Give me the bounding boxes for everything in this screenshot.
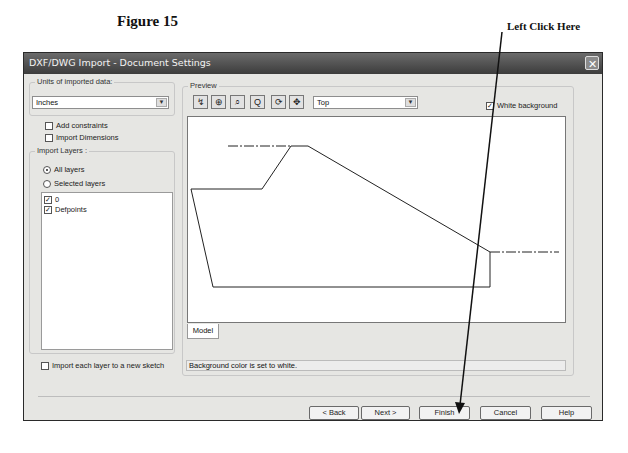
zoom-window-button[interactable]: ⌕ [230,95,245,109]
import-dimensions-label: Import Dimensions [56,133,119,142]
import-each-layer-label: Import each layer to a new sketch [52,361,164,370]
radio-unselected-icon [43,180,51,188]
chevron-down-icon: ▼ [405,98,416,107]
units-value: Inches [36,98,58,107]
layer-label: Defpoints [55,205,87,214]
layers-list[interactable]: ✓ 0 ✓ Defpoints [41,192,173,350]
checkbox-box [45,134,53,142]
select-tool-button[interactable]: ↯ [193,95,208,109]
radio-all-layers[interactable]: All layers [43,165,84,174]
units-dropdown[interactable]: Inches ▼ [32,96,169,109]
radio-selected-icon [43,166,51,174]
zoom-tool-button[interactable]: ⊕ [211,95,226,109]
preview-legend: Preview [188,81,219,90]
back-button[interactable]: < Back [309,406,359,420]
cancel-button[interactable]: Cancel [480,406,531,420]
dialog-title: DXF/DWG Import - Document Settings [29,57,211,68]
status-bar: Background color is set to white. [186,360,566,371]
import-each-layer-checkbox[interactable]: Import each layer to a new sketch [41,361,164,370]
view-value: Top [317,98,329,107]
select-icon: ↯ [197,97,205,107]
rotate-icon: ⟳ [275,97,283,107]
rotate-button[interactable]: ⟳ [271,95,286,109]
layer-label: 0 [55,195,59,204]
tab-model[interactable]: Model [187,324,219,339]
callout-label: Left Click Here [507,20,580,32]
preview-canvas[interactable] [187,116,566,323]
close-x-icon: ✕ [588,58,597,70]
add-constraints-label: Add constraints [56,121,108,130]
zoom-fit-icon: Q [254,97,261,107]
checkbox-box [41,362,49,370]
checkbox-box [45,122,53,130]
import-dimensions-checkbox[interactable]: Import Dimensions [45,133,119,142]
checkmark-icon: ✓ [486,102,494,110]
pan-button[interactable]: ✥ [289,95,304,109]
white-background-checkbox[interactable]: ✓ White background [486,101,557,110]
import-layers-legend: Import Layers : [35,146,89,155]
title-bar[interactable]: DXF/DWG Import - Document Settings ✕ [24,53,602,74]
zoom-fit-button[interactable]: Q [250,95,265,109]
checkmark-icon: ✓ [44,196,52,204]
pan-icon: ✥ [293,97,301,107]
selected-layers-label: Selected layers [54,179,105,188]
all-layers-label: All layers [54,165,84,174]
white-background-label: White background [497,101,557,110]
layer-item-0[interactable]: ✓ 0 [44,195,59,204]
divider [38,396,590,397]
chevron-down-icon: ▼ [156,98,167,107]
checkmark-icon: ✓ [44,206,52,214]
next-button[interactable]: Next > [361,406,410,420]
view-dropdown[interactable]: Top ▼ [313,96,418,109]
units-legend: Units of imported data: [35,77,114,86]
zoom-window-icon: ⌕ [235,97,240,107]
layer-item-defpoints[interactable]: ✓ Defpoints [44,205,87,214]
help-button[interactable]: Help [541,406,592,420]
figure-title: Figure 15 [117,13,178,30]
drawing-preview [188,117,565,322]
zoom-icon: ⊕ [215,97,223,107]
add-constraints-checkbox[interactable]: Add constraints [45,121,108,130]
close-button[interactable]: ✕ [585,56,599,70]
radio-selected-layers[interactable]: Selected layers [43,179,105,188]
finish-button[interactable]: Finish [419,406,470,420]
